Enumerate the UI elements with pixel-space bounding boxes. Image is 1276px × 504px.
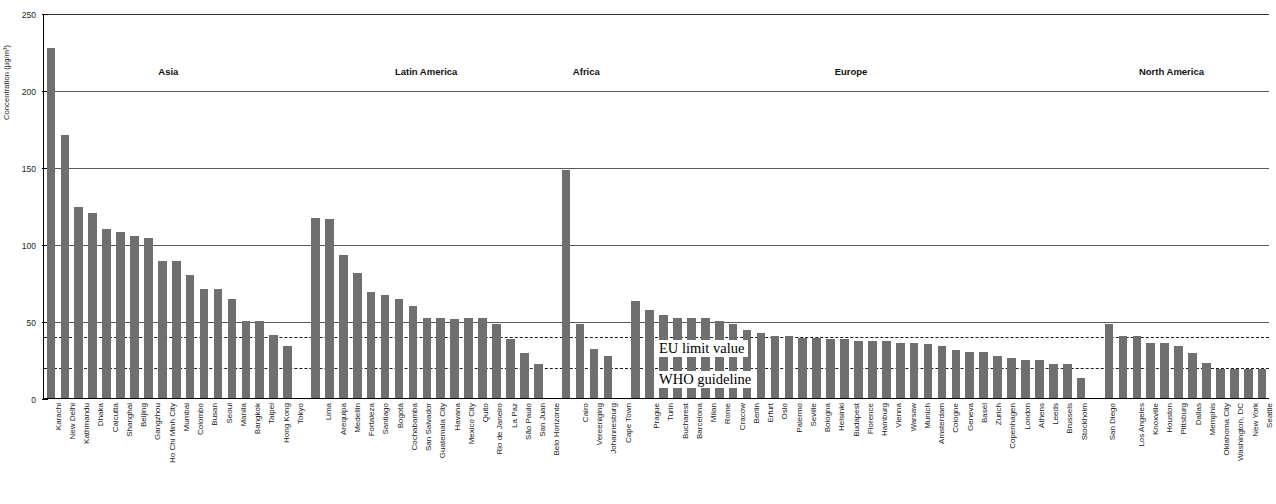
bar: [826, 339, 835, 398]
x-label-slot: Palermo: [784, 401, 798, 504]
x-label-slot: Vienna: [884, 401, 898, 504]
x-label-slot: Zurich: [984, 401, 998, 504]
bar: [1216, 369, 1225, 398]
bar-slot: [86, 14, 100, 398]
bar-slot: [462, 14, 476, 398]
bar: [88, 213, 97, 398]
y-tick-label: 50: [8, 318, 36, 328]
y-tick-label: 0: [8, 395, 36, 405]
bar-slot: [1255, 14, 1269, 398]
reference-annotation: EU limit value: [655, 340, 748, 357]
bar: [520, 353, 529, 398]
bar-slot: [559, 14, 573, 398]
bar: [1119, 336, 1128, 398]
bar: [436, 318, 445, 398]
bar: [325, 219, 334, 398]
reference-annotation: WHO guideline: [655, 371, 755, 388]
x-label-slot: Rome: [713, 401, 727, 504]
bar-slot: [977, 14, 991, 398]
x-label-slot: New York: [1240, 401, 1254, 504]
bar: [464, 318, 473, 398]
bar: [1146, 343, 1155, 398]
x-label-slot: Florence: [855, 401, 869, 504]
x-label-slot: Munich: [912, 401, 926, 504]
x-label-slot: Santiago: [371, 401, 385, 504]
x-label-slot: Helsinki: [827, 401, 841, 504]
x-label-slot: Milan: [699, 401, 713, 504]
x-label-slot: Oslo: [770, 401, 784, 504]
bar-slot: [1060, 14, 1074, 398]
x-label-slot: Barcelona: [684, 401, 698, 504]
x-label-slot: Taipei: [257, 401, 271, 504]
bar-slot: [183, 14, 197, 398]
bar: [506, 339, 515, 398]
bar-slot: [350, 14, 364, 398]
bar: [1105, 324, 1114, 398]
bar-slot: [1102, 14, 1116, 398]
bar: [771, 336, 780, 398]
bar: [311, 218, 320, 398]
bar-slot: [921, 14, 935, 398]
bar-slot: [1116, 14, 1130, 398]
x-label-slot: Shanghai: [114, 401, 128, 504]
bar: [840, 339, 849, 398]
bar-slot: [239, 14, 253, 398]
bar: [1174, 346, 1183, 398]
bar-slot: [601, 14, 615, 398]
x-label-slot: [1083, 401, 1097, 504]
x-label-slot: Dhaka: [86, 401, 100, 504]
x-label-slot: Berlin: [741, 401, 755, 504]
x-label-slot: Athens: [1026, 401, 1040, 504]
x-label-slot: São Paulo: [513, 401, 527, 504]
bar-slot: [768, 14, 782, 398]
x-label-slot: Leeds: [1041, 401, 1055, 504]
bar-spacer: [1088, 14, 1102, 398]
air-quality-bar-chart: Concentration (µg/m³) 050100150200250 As…: [0, 0, 1276, 504]
y-tick-mark: [42, 399, 48, 400]
x-label-slot: Prague: [642, 401, 656, 504]
bar-slot: [211, 14, 225, 398]
bar-slot: [100, 14, 114, 398]
bar: [924, 344, 933, 398]
bar: [812, 338, 821, 398]
y-tick-label: 100: [8, 241, 36, 251]
bar: [478, 318, 487, 398]
bar: [965, 352, 974, 398]
bar: [61, 135, 70, 398]
bar-spacer: [615, 14, 629, 398]
x-label-slot: Guatemala City: [428, 401, 442, 504]
region-label: Latin America: [395, 66, 457, 77]
y-axis-ticks: 050100150200250: [6, 0, 36, 504]
bar: [423, 318, 432, 398]
bar: [1021, 360, 1030, 399]
bar: [590, 349, 599, 398]
x-label-slot: Bologna: [813, 401, 827, 504]
bar-slot: [796, 14, 810, 398]
bar-slot: [309, 14, 323, 398]
bar-slot: [141, 14, 155, 398]
x-label-slot: Bucharest: [670, 401, 684, 504]
x-label-slot: Gangzhou: [143, 401, 157, 504]
bar: [896, 343, 905, 398]
x-label-slot: Belo Horizonte: [542, 401, 556, 504]
x-label-slot: Oklahoma City: [1212, 401, 1226, 504]
bar: [1244, 369, 1253, 398]
bar-slot: [225, 14, 239, 398]
bar: [242, 321, 251, 398]
x-label-slot: Basel: [969, 401, 983, 504]
bar: [868, 341, 877, 398]
bar: [1133, 336, 1142, 398]
x-label-slot: Havana: [442, 401, 456, 504]
bar-slot: [322, 14, 336, 398]
x-label-slot: Memphis: [1197, 401, 1211, 504]
x-label-slot: Busan: [200, 401, 214, 504]
x-label-slot: Cochabamba: [399, 401, 413, 504]
x-label-spacer: [300, 401, 314, 504]
x-label-slot: Warsaw: [898, 401, 912, 504]
bar-slot: [517, 14, 531, 398]
bar-slot: [782, 14, 796, 398]
bar-slot: [531, 14, 545, 398]
bar-slot: [879, 14, 893, 398]
y-tick-label: 200: [8, 87, 36, 97]
bar: [172, 261, 181, 398]
